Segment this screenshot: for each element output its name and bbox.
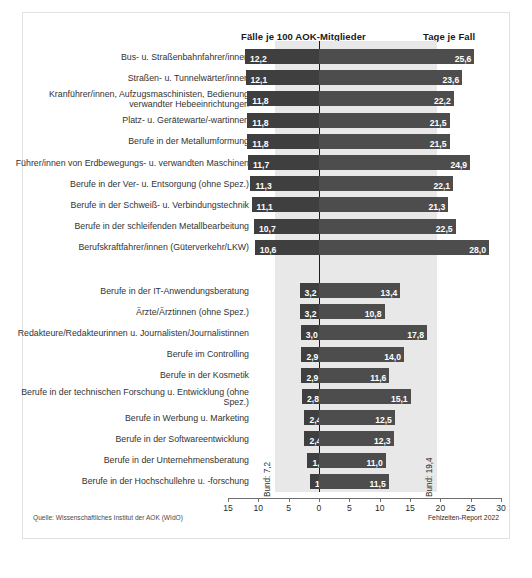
category-label: Berufe in der Softwareentwicklung <box>9 434 249 444</box>
bar-value-faelle: 11,8 <box>249 116 268 131</box>
bar-faelle: 10,7 <box>254 219 319 234</box>
category-label: Berufe in der Unternehmensberatung <box>9 455 249 465</box>
axis-tick <box>289 498 290 502</box>
bar-value-faelle: 12,1 <box>248 73 268 88</box>
bar-tage: 15,1 <box>319 389 411 404</box>
bar-faelle: 2,4 <box>304 410 319 425</box>
bar-tage: 12,3 <box>319 431 394 446</box>
bar-value-faelle: 10,7 <box>256 222 276 237</box>
bar-value-faelle: 2,8 <box>304 392 319 407</box>
bar-faelle: 11,1 <box>252 197 319 212</box>
bar-value-tage: 28,0 <box>469 243 486 258</box>
bar-value-tage: 12,3 <box>374 434 391 449</box>
bar-tage: 14,0 <box>319 347 404 362</box>
bar-value-tage: 11,6 <box>370 371 386 386</box>
bar-faelle: 12,2 <box>245 49 319 64</box>
table-row: Berufe in der Ver- u. Entsorgung (ohne S… <box>23 173 511 194</box>
axis-tick-label: 20 <box>436 503 446 513</box>
axis-tick-label: 30 <box>496 503 506 513</box>
axis-tick <box>380 498 381 502</box>
table-row: Berufe in der Metallumformung11,821,5 <box>23 131 511 152</box>
bar-value-tage: 22,1 <box>433 179 450 194</box>
bar-tage: 22,1 <box>319 176 453 191</box>
bar-tage: 22,5 <box>319 219 456 234</box>
table-row: Bus- u. Straßenbahnfahrer/innen12,225,6 <box>23 46 511 67</box>
source-note: Quelle: Wissenschaftliches Institut der … <box>33 514 183 521</box>
table-row: Kranführer/innen, Aufzugsmaschinisten, B… <box>23 88 511 109</box>
category-label: Bus- u. Straßenbahnfahrer/innen <box>9 51 249 61</box>
bar-faelle: 3,2 <box>300 283 319 298</box>
bund-left-label: Bund: 7,2 <box>263 462 272 497</box>
bar-value-faelle: 11,8 <box>249 94 268 109</box>
bar-value-faelle: 3,2 <box>302 286 317 301</box>
table-row: Berufe in der Softwareentwicklung2,412,3 <box>23 428 511 449</box>
bar-tage: 11,6 <box>319 368 389 383</box>
bar-tage: 22,2 <box>319 91 454 106</box>
table-row: Redakteure/Redakteurinnen u. Journaliste… <box>23 322 511 343</box>
category-label: Berufe in der Hochschullehre u. -forschu… <box>9 476 249 486</box>
table-row: Berufe in Werbung u. Marketing2,412,5 <box>23 407 511 428</box>
bar-faelle: 2,9 <box>301 347 319 362</box>
bar-value-faelle: 2,9 <box>303 371 318 386</box>
axis-tick-label: 25 <box>466 503 476 513</box>
category-label: Berufe in der technischen Forschung u. E… <box>9 386 249 406</box>
bar-faelle: 1,9 <box>307 453 319 468</box>
category-label: Straßen- u. Tunnelwärter/innen <box>9 73 249 83</box>
axis-tick-label: 15 <box>223 503 233 513</box>
bar-faelle: 11,3 <box>250 176 319 191</box>
bar-value-tage: 13,4 <box>381 286 398 301</box>
category-label: Berufe in der Kosmetik <box>9 370 249 380</box>
table-row: Führer/innen von Erdbewegungs- u. verwan… <box>23 152 511 173</box>
bar-value-tage: 17,8 <box>407 328 424 343</box>
bar-value-tage: 15,1 <box>391 392 408 407</box>
bar-value-faelle: 11,3 <box>252 179 271 194</box>
bar-faelle: 11,8 <box>247 91 319 106</box>
category-label: Berufe in der IT-Anwendungsberatung <box>9 285 249 295</box>
axis-tick-label: 0 <box>317 503 322 513</box>
table-row: Ärzte/Ärztinnen (ohne Spez.)3,210,8 <box>23 301 511 322</box>
axis-tick <box>228 498 229 502</box>
report-note: Fehlzeiten-Report 2022 <box>428 514 499 521</box>
bar-faelle: 11,8 <box>247 113 319 128</box>
bar-tage: 23,6 <box>319 70 462 85</box>
x-axis: 15105051015202530 <box>23 498 511 499</box>
axis-tick-label: 15 <box>405 503 415 513</box>
axis-tick-label: 5 <box>347 503 352 513</box>
bar-faelle: 10,6 <box>255 240 319 255</box>
bar-value-faelle: 11,7 <box>250 158 269 173</box>
table-row: Platz- u. Gerätewarte/-wartinnen11,821,5 <box>23 110 511 131</box>
category-label: Berufe in der Ver- u. Entsorgung (ohne S… <box>9 179 249 189</box>
bar-faelle: 2,8 <box>302 389 319 404</box>
axis-tick <box>501 498 502 502</box>
bar-value-tage: 22,5 <box>436 222 453 237</box>
bund-right-label: Bund: 19,4 <box>425 457 434 497</box>
category-label: Berufe in Werbung u. Marketing <box>9 413 249 423</box>
category-label: Ärzte/Ärztinnen (ohne Spez.) <box>9 307 249 317</box>
bar-tage: 11,5 <box>319 474 389 489</box>
bar-value-faelle: 11,1 <box>254 200 273 215</box>
table-row: Berufskraftfahrer/innen (Güterverkehr/LK… <box>23 237 511 258</box>
bar-tage: 17,8 <box>319 325 427 340</box>
bar-faelle: 1,5 <box>310 474 319 489</box>
table-row: Berufe in der schleifenden Metallbearbei… <box>23 216 511 237</box>
table-row: Berufe in der Schweiß- u. Verbindungstec… <box>23 194 511 215</box>
category-label: Redakteure/Redakteurinnen u. Journaliste… <box>9 328 249 338</box>
bar-tage: 11,0 <box>319 453 386 468</box>
axis-tick <box>319 498 320 502</box>
bar-tage: 28,0 <box>319 240 489 255</box>
axis-tick <box>440 498 441 502</box>
bar-value-faelle: 12,2 <box>247 52 267 67</box>
category-label: Kranführer/innen, Aufzugsmaschinisten, B… <box>9 89 249 109</box>
bar-value-tage: 21,5 <box>430 137 447 152</box>
figure-panel: Fälle je 100 AOK-Mitglieder Tage je Fall… <box>22 12 510 539</box>
bar-value-faelle: 11,8 <box>249 137 268 152</box>
bar-value-faelle: 3,0 <box>303 328 318 343</box>
bar-value-tage: 11,0 <box>367 456 383 471</box>
axis-tick <box>410 498 411 502</box>
axis-tick <box>258 498 259 502</box>
plot-area: Bus- u. Straßenbahnfahrer/innen12,225,6S… <box>23 41 511 521</box>
bar-value-tage: 24,9 <box>450 158 467 173</box>
category-label: Berufe im Controlling <box>9 349 249 359</box>
bar-value-tage: 10,8 <box>365 307 382 322</box>
bar-tage: 25,6 <box>319 49 474 64</box>
